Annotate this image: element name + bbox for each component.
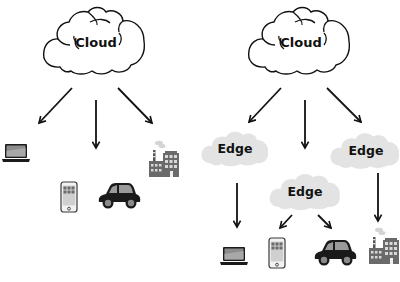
edge-node-right: Edge [330, 133, 399, 168]
smartphone-icon [269, 238, 285, 268]
edge-node-left: Edge [201, 132, 268, 166]
factory-icon [149, 141, 179, 177]
car-icon [99, 183, 140, 209]
arrow-cloud-to-edge-left [249, 88, 281, 122]
left-panel-cloud-model: Cloud [2, 8, 179, 213]
edge-node-middle: Edge [270, 174, 340, 210]
left-cloud-arrows [39, 88, 152, 148]
arrow-edge-to-car [318, 215, 331, 228]
arrow-cloud-to-factory [118, 88, 152, 123]
arrow-edge-to-phone [280, 215, 292, 228]
edge-label: Edge [288, 184, 323, 199]
laptop-icon [220, 247, 248, 265]
edge-label: Edge [218, 141, 253, 156]
arrow-cloud-to-edge-right [327, 88, 361, 122]
diagram-canvas: Cloud Cloud Edge Edge [0, 0, 400, 282]
right-panel-edge-model: Cloud Edge Edge Edge [201, 8, 399, 269]
laptop-icon [2, 144, 30, 162]
central-cloud-right: Cloud [249, 8, 350, 75]
cloud-to-edge-arrows [249, 88, 361, 148]
arrow-cloud-to-laptop [39, 88, 72, 123]
cloud-label: Cloud [280, 35, 322, 50]
edge-label: Edge [349, 143, 384, 158]
car-icon [315, 240, 356, 266]
smartphone-icon [61, 182, 77, 212]
factory-icon [369, 228, 399, 264]
cloud-label: Cloud [75, 35, 117, 50]
central-cloud-left: Cloud [44, 8, 145, 75]
